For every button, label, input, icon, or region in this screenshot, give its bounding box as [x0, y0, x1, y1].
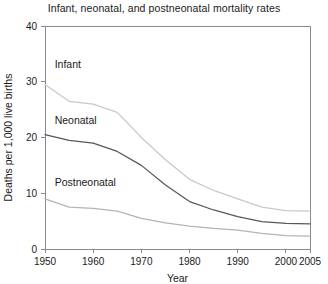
- series-lines: [45, 85, 310, 237]
- x-tick-label: 1970: [130, 256, 153, 267]
- plot-frame: [45, 26, 310, 249]
- x-tick-label: 2000: [275, 256, 298, 267]
- x-tick-label: 1950: [34, 256, 57, 267]
- series-label-infant: Infant: [55, 58, 81, 70]
- series-label-postneonatal: Postneonatal: [55, 176, 116, 188]
- x-tick-label: 2005: [299, 256, 322, 267]
- mortality-rates-chart: Infant, neonatal, and postneonatal morta…: [0, 0, 328, 284]
- y-tick-label: 0: [31, 244, 37, 255]
- series-labels: InfantNeonatalPostneonatal: [55, 58, 116, 188]
- chart-plot-area: 010203040 1950196019701980199020002005 I…: [0, 0, 328, 284]
- y-tick-label: 40: [26, 21, 38, 32]
- x-tick-label: 1980: [178, 256, 201, 267]
- x-axis-ticks: 1950196019701980199020002005: [34, 249, 322, 267]
- y-tick-label: 20: [26, 132, 38, 143]
- x-axis-title: Year: [167, 272, 189, 284]
- y-tick-label: 30: [26, 76, 38, 87]
- series-line-postneonatal: [45, 199, 310, 236]
- x-tick-label: 1990: [227, 256, 250, 267]
- x-tick-label: 1960: [82, 256, 105, 267]
- y-tick-label: 10: [26, 188, 38, 199]
- series-line-infant: [45, 85, 310, 212]
- series-label-neonatal: Neonatal: [55, 114, 97, 126]
- y-axis-ticks: 010203040: [26, 21, 45, 255]
- axis-frame: [45, 26, 310, 249]
- y-axis-title: Deaths per 1,000 live births: [2, 74, 14, 202]
